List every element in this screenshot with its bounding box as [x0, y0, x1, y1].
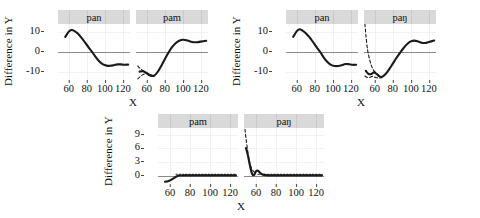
plot-area [286, 24, 358, 82]
plot-area [136, 24, 208, 82]
y-axis-ticks: 100-10 [242, 4, 268, 76]
y-tick-label: 10 [258, 26, 269, 37]
plot-area [364, 24, 436, 82]
plot-panel: pam [158, 114, 238, 184]
y-tick-label: -10 [26, 66, 40, 77]
series-difference [366, 41, 434, 77]
x-tick-label: 120 [222, 188, 238, 199]
panel-title: pan [86, 12, 101, 23]
x-tick-label: 60 [370, 84, 381, 95]
panel-title: pam [163, 12, 181, 23]
x-tick-label: 120 [193, 84, 209, 95]
panel-title: paŋ [392, 12, 407, 23]
y-tick-label: -10 [254, 66, 268, 77]
panel-strip-label: pam [136, 10, 208, 24]
figure-panel-grid: Difference in Y100-10pan6080100120pam608… [0, 0, 480, 218]
plot-area [244, 128, 324, 184]
y-axis-ticks: 100-10 [14, 4, 40, 76]
x-tick-label: 80 [388, 84, 399, 95]
y-tick-label: 0 [263, 46, 268, 57]
x-tick-label: 60 [165, 188, 176, 199]
panel-strip-label: pan [286, 10, 358, 24]
series-confidence-upper [365, 24, 380, 76]
plot-panel: pam [136, 10, 208, 82]
y-tick-label: 3 [135, 156, 140, 167]
panel-title: pan [314, 12, 329, 23]
x-tick-label: 60 [251, 188, 262, 199]
x-tick-label: 80 [310, 84, 321, 95]
y-tick-label: 9 [135, 129, 140, 140]
y-axis-ticks: 9630 [114, 110, 140, 180]
x-tick-label: 120 [343, 84, 359, 95]
x-tick-label: 120 [115, 84, 131, 95]
x-tick-label: 80 [185, 188, 196, 199]
x-axis-label: X [286, 96, 436, 108]
panel-strip-label: paŋ [364, 10, 436, 24]
series-difference [165, 175, 236, 181]
x-tick-label: 60 [64, 84, 75, 95]
x-tick-label: 100 [175, 84, 191, 95]
series-difference [65, 30, 128, 66]
series-difference [293, 29, 356, 66]
x-axis-label: X [158, 200, 324, 212]
panel-title: paŋ [276, 116, 291, 127]
x-tick-label: 100 [288, 188, 304, 199]
y-tick-label: 0 [35, 46, 40, 57]
plot-area [158, 128, 238, 184]
x-axis-label: X [58, 96, 208, 108]
plot-panel: pan [286, 10, 358, 82]
x-tick-label: 80 [160, 84, 171, 95]
panel-strip-label: pam [158, 114, 238, 128]
x-tick-label: 120 [421, 84, 437, 95]
panel-strip-label: pan [58, 10, 130, 24]
y-tick-label: 6 [135, 142, 140, 153]
plot-panel: paŋ [244, 114, 324, 184]
series-difference [246, 148, 322, 175]
panel-title: pam [189, 116, 207, 127]
y-tick-label: 0 [135, 170, 140, 181]
plot-panel: pan [58, 10, 130, 82]
x-tick-label: 60 [142, 84, 153, 95]
y-axis-label: Difference in Y [230, 12, 242, 90]
x-tick-label: 100 [202, 188, 218, 199]
plot-panel: paŋ [364, 10, 436, 82]
x-tick-label: 60 [292, 84, 303, 95]
x-tick-label: 100 [97, 84, 113, 95]
x-tick-label: 120 [308, 188, 324, 199]
x-tick-label: 100 [403, 84, 419, 95]
y-axis-label: Difference in Y [102, 112, 114, 190]
x-tick-label: 80 [82, 84, 93, 95]
x-tick-label: 100 [325, 84, 341, 95]
plot-area [58, 24, 130, 82]
panel-strip-label: paŋ [244, 114, 324, 128]
series-difference [140, 40, 207, 76]
y-tick-label: 10 [30, 26, 41, 37]
x-tick-label: 80 [271, 188, 282, 199]
y-axis-label: Difference in Y [2, 12, 14, 90]
